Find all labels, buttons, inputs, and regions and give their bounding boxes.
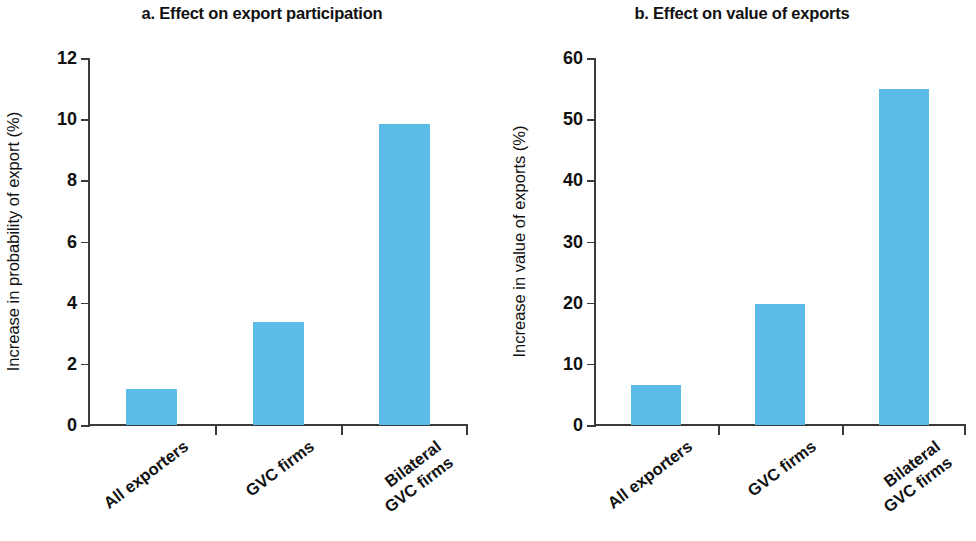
category-label-line: All exporters [603, 436, 696, 513]
panel-a-plot-area: 024681012 [88, 58, 468, 425]
bar [755, 304, 805, 425]
panel-b-title: b. Effect on value of exports [488, 4, 976, 23]
y-tick-label: 20 [563, 292, 583, 313]
bar [126, 389, 177, 425]
category-label-line: GVC firms [743, 436, 819, 501]
bar [631, 385, 681, 425]
x-axis-category-label: BilateralGVC firms [368, 436, 457, 517]
y-tick-label: 2 [67, 353, 77, 374]
panel-a-y-axis-label: Increase in probability of export (%) [2, 58, 24, 425]
figure-two-panel-bar-chart: a. Effect on export participation Increa… [0, 0, 976, 541]
category-label-line: All exporters [99, 436, 192, 513]
panel-a: a. Effect on export participation Increa… [0, 0, 488, 541]
y-tick-label: 30 [563, 231, 583, 252]
y-tick-label: 10 [563, 353, 583, 374]
y-tick-label: 4 [67, 292, 77, 313]
panel-b-category-labels: All exportersGVC firmsBilateralGVC firms [594, 432, 966, 541]
panel-a-title: a. Effect on export participation [0, 4, 506, 23]
y-tick-label: 50 [563, 109, 583, 130]
y-tick-mark [81, 425, 90, 427]
panel-b: b. Effect on value of exports Increase i… [488, 0, 976, 541]
y-tick-label: 60 [563, 48, 583, 69]
y-tick-label: 0 [573, 415, 583, 436]
panel-b-plot-area: 0102030405060 [594, 58, 966, 425]
panel-b-bars [594, 58, 966, 425]
x-axis-category-label: All exporters [603, 436, 696, 513]
bar [379, 124, 430, 425]
panel-b-y-axis-label: Increase in value of exports (%) [508, 58, 530, 425]
y-tick-label: 10 [57, 109, 77, 130]
x-axis-category-label: GVC firms [743, 436, 819, 501]
y-tick-label: 0 [67, 415, 77, 436]
bar [879, 89, 929, 425]
x-axis-category-label: GVC firms [242, 436, 318, 501]
y-tick-mark [587, 425, 596, 427]
x-axis-category-label: All exporters [99, 436, 192, 513]
y-tick-label: 8 [67, 170, 77, 191]
x-axis-category-label: BilateralGVC firms [867, 436, 956, 517]
bar [253, 322, 304, 425]
y-tick-label: 40 [563, 170, 583, 191]
y-tick-label: 6 [67, 231, 77, 252]
y-tick-label: 12 [57, 48, 77, 69]
category-label-line: GVC firms [242, 436, 318, 501]
panel-a-bars [88, 58, 468, 425]
panel-a-category-labels: All exportersGVC firmsBilateralGVC firms [88, 432, 468, 541]
